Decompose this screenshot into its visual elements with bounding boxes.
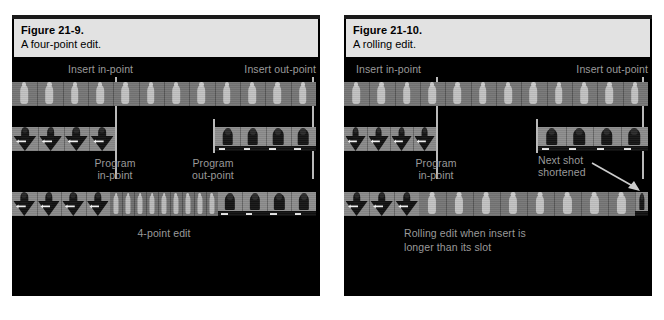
film-frame: [38, 127, 64, 151]
film-frame: [139, 82, 164, 106]
figure-caption-subtitle: A rolling edit.: [353, 37, 650, 52]
label-result-4-point-edit: 4-point edit: [12, 227, 316, 240]
label-insert-in-point: Insert in-point: [356, 63, 421, 76]
label-insert-out-point: Insert out-point: [576, 63, 648, 76]
film-segment-compressed-insert: [110, 192, 218, 216]
track-source-clip: [12, 82, 316, 106]
film-segment-insert: [419, 192, 635, 216]
film-frame: [496, 82, 521, 106]
film-frame: [500, 192, 527, 216]
figure-caption-subtitle: A four-point edit.: [21, 37, 318, 52]
film-frame: [291, 82, 316, 106]
film-frame: [240, 127, 265, 151]
track-result: [12, 192, 316, 216]
film-frame: [446, 192, 473, 216]
film-segment-program-tail: [218, 192, 316, 216]
film-frame: [194, 192, 206, 216]
film-frame: [64, 127, 90, 151]
track-program-left-segment: [12, 127, 115, 151]
film-frame: [623, 82, 648, 106]
film-frame: [344, 127, 367, 151]
film-frame: [182, 192, 194, 216]
film-frame: [395, 82, 420, 106]
film-frame: [113, 82, 138, 106]
figure-stage-21-10: Insert in-point Insert out-point: [344, 57, 652, 296]
label-insert-in-point: Insert in-point: [68, 63, 133, 76]
film-segment-program-head: [12, 192, 110, 216]
marker-program-out-point: [213, 119, 215, 153]
film-frame: [266, 127, 291, 151]
film-frame: [37, 192, 62, 216]
film-frame: [158, 192, 170, 216]
marker-program-in-point: [115, 119, 117, 153]
film-frame: [471, 82, 496, 106]
film-frame: [597, 82, 622, 106]
film-frame: [63, 82, 88, 106]
film-frame: [413, 127, 436, 151]
film-frame: [521, 82, 546, 106]
track-result: [344, 192, 648, 216]
track-program-right-segment: [538, 127, 648, 151]
track-program-left-segment: [344, 127, 436, 151]
film-frame: [240, 82, 265, 106]
label-insert-out-point: Insert out-point: [244, 63, 316, 76]
film-segment-shortened-next-shot: [635, 192, 648, 216]
label-result-rolling-edit-line1: Rolling edit when insert is: [404, 227, 526, 240]
film-frame: [369, 192, 394, 216]
track-program-right-segment: [215, 127, 316, 151]
label-next-shot-shortened-line1: Next shot: [538, 154, 583, 167]
figure-caption-21-10: Figure 21-10. A rolling edit.: [346, 19, 650, 57]
marker-program-out-point: [536, 119, 538, 153]
film-frame: [89, 127, 115, 151]
label-program-in-point-line1: Program: [75, 157, 155, 170]
label-program-in-point-line1: Program: [396, 157, 476, 170]
film-frame: [394, 192, 419, 216]
film-frame: [344, 82, 369, 106]
film-frame: [473, 192, 500, 216]
film-frame: [86, 192, 111, 216]
figure-panel-21-10: Figure 21-10. A rolling edit. Insert in-…: [344, 15, 652, 296]
film-frame: [122, 192, 134, 216]
figure-canvas: Figure 21-9. A four-point edit. Insert i…: [0, 0, 664, 320]
film-frame: [291, 127, 316, 151]
film-frame: [134, 192, 146, 216]
film-segment-program-head: [344, 192, 419, 216]
film-frame: [61, 192, 86, 216]
label-result-rolling-edit-line2: longer than its slot: [404, 241, 491, 254]
film-frame: [12, 127, 38, 151]
label-next-shot-shortened-line2: shortened: [538, 166, 586, 179]
film-frame: [344, 192, 369, 216]
film-frame: [164, 82, 189, 106]
film-frame: [206, 192, 218, 216]
figure-stage-21-9: Insert in-point Insert out-point: [12, 57, 320, 296]
film-frame: [538, 127, 566, 151]
film-frame: [267, 192, 292, 216]
film-frame: [420, 82, 445, 106]
film-frame: [265, 82, 290, 106]
film-frame: [88, 82, 113, 106]
film-frame: [146, 192, 158, 216]
film-frame: [419, 192, 446, 216]
film-frame: [593, 127, 621, 151]
film-frame: [12, 192, 37, 216]
film-frame: [215, 127, 240, 151]
label-program-out-point-line2: out-point: [173, 169, 253, 182]
film-frame: [367, 127, 390, 151]
film-frame: [572, 82, 597, 106]
track-source-clip: [344, 82, 648, 106]
film-frame: [547, 82, 572, 106]
figure-panel-21-9: Figure 21-9. A four-point edit. Insert i…: [12, 15, 320, 296]
film-frame: [189, 82, 214, 106]
label-program-in-point-line2: in-point: [396, 169, 476, 182]
film-frame: [527, 192, 554, 216]
figure-caption-title: Figure 21-10.: [353, 23, 650, 37]
figure-caption-21-9: Figure 21-9. A four-point edit.: [14, 19, 318, 57]
film-frame: [581, 192, 608, 216]
film-frame: [215, 82, 240, 106]
film-frame: [554, 192, 581, 216]
film-frame: [608, 192, 635, 216]
label-program-in-point-line2: in-point: [75, 169, 155, 182]
film-frame: [445, 82, 470, 106]
figure-caption-title: Figure 21-9.: [21, 23, 318, 37]
label-program-out-point-line1: Program: [173, 157, 253, 170]
